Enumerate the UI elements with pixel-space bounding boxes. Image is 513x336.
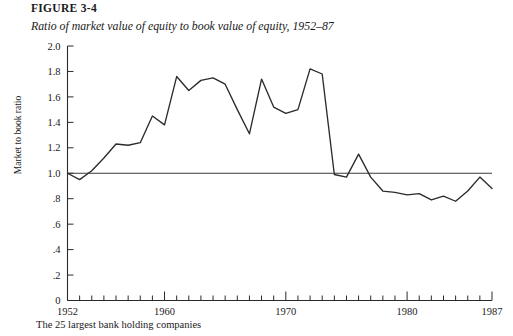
x-tick-label: 1970 xyxy=(275,306,296,317)
y-tick-label: .4 xyxy=(53,244,62,255)
x-tick-marks xyxy=(68,292,493,301)
y-tick-labels: 0.2.4.6.81.01.21.41.61.82.0 xyxy=(47,41,61,307)
y-tick-label: 1.8 xyxy=(47,66,60,77)
figure-footnote: The 25 largest bank holding companies xyxy=(36,319,201,330)
y-tick-label: 1.0 xyxy=(47,168,60,179)
y-tick-label: .2 xyxy=(53,270,61,281)
y-tick-label: 1.2 xyxy=(47,142,60,153)
x-tick-label: 1980 xyxy=(397,306,418,317)
x-tick-label: 1952 xyxy=(57,306,78,317)
line-chart: 0.2.4.6.81.01.21.41.61.82.0 195219601970… xyxy=(0,0,513,336)
y-tick-label: .6 xyxy=(53,219,61,230)
y-tick-label: 1.4 xyxy=(47,117,61,128)
x-tick-label: 1987 xyxy=(482,306,503,317)
y-tick-label: 1.6 xyxy=(47,92,60,103)
market-to-book-ratio-line xyxy=(68,69,493,201)
x-tick-label: 1960 xyxy=(154,306,175,317)
y-tick-label: .8 xyxy=(53,193,61,204)
x-tick-labels: 19521960197019801987 xyxy=(57,306,503,317)
y-tick-label: 2.0 xyxy=(47,41,60,52)
y-tick-label: 0 xyxy=(55,295,60,306)
figure-page: FIGURE 3-4 Ratio of market value of equi… xyxy=(0,0,513,336)
